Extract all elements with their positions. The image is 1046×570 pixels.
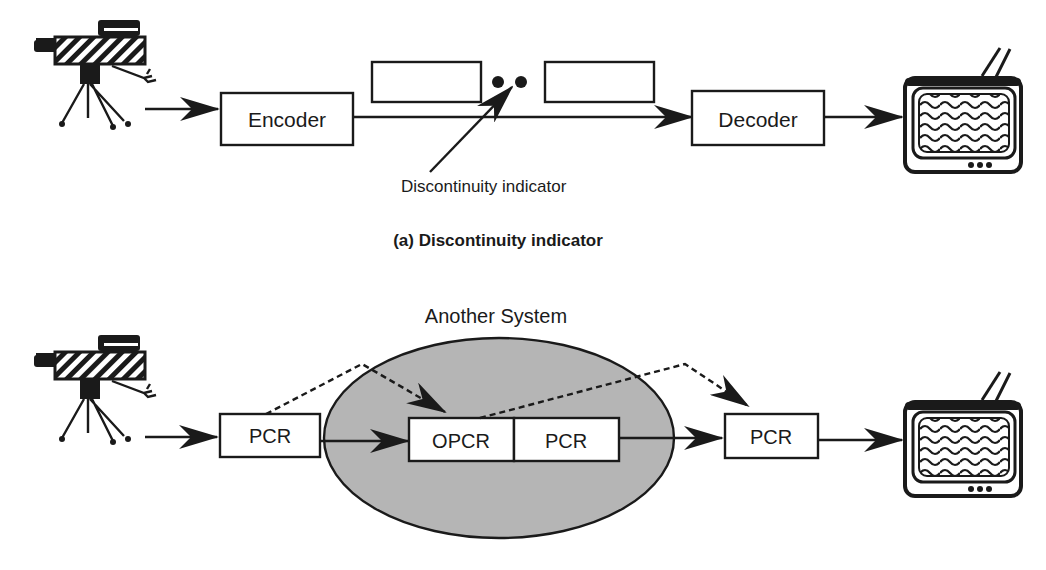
pcr-out-label: PCR [750, 426, 792, 448]
television-icon [905, 372, 1021, 496]
system-label: Another System [425, 305, 567, 327]
discontinuity-dot-2 [515, 76, 527, 88]
diagram-b: Another System PCR OPCR PCR PCR [34, 305, 1021, 538]
packet-box-right [545, 62, 654, 102]
encoder-label: Encoder [248, 108, 326, 131]
diagram-a: Encoder Discontinuity indicator Decoder … [34, 20, 1021, 250]
video-camera-icon [34, 20, 156, 130]
pcr-in-label: PCR [249, 425, 291, 447]
video-camera-icon [34, 335, 156, 445]
pcr-mid-label: PCR [545, 430, 587, 452]
diagram-canvas: Encoder Discontinuity indicator Decoder … [0, 0, 1046, 570]
television-icon [905, 48, 1021, 172]
packet-box-left [372, 62, 481, 102]
caption-a: (a) Discontinuity indicator [393, 231, 603, 250]
discontinuity-dot-1 [492, 76, 504, 88]
opcr-label: OPCR [432, 430, 490, 452]
decoder-label: Decoder [718, 108, 797, 131]
pointer-label: Discontinuity indicator [401, 177, 567, 196]
